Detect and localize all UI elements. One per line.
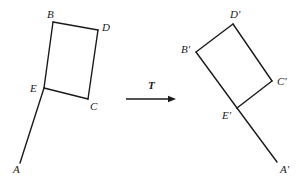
preimage-edge-D-C (88, 30, 98, 99)
image-vertex-label-Bp: B' (181, 44, 190, 55)
preimage-edge-C-E (44, 88, 88, 99)
image-edge-Dp-Cp (233, 24, 272, 81)
transformation-arrow (126, 96, 176, 102)
preimage-vertex-label-C: C (90, 101, 97, 112)
image-vertex-label-Ap: A' (280, 164, 289, 175)
image-edge-Ep-Ap (237, 108, 277, 162)
image-vertex-label-Ep: E' (222, 110, 231, 121)
arrow-head (168, 96, 176, 102)
image-edge-Bp-Dp (196, 24, 233, 52)
preimage-vertex-label-A: A (13, 164, 20, 175)
image-edge-Cp-Ep (237, 81, 272, 108)
preimage-edge-E-B (44, 22, 53, 88)
image-vertex-label-Dp: D' (230, 9, 240, 20)
preimage-vertex-label-D: D (102, 22, 110, 33)
preimage-vertex-label-E: E (30, 83, 37, 94)
preimage-edge-B-D (53, 22, 98, 30)
image-edge-group (196, 24, 277, 162)
transformation-operator-label: T (148, 80, 155, 91)
image-vertex-label-Cp: C' (277, 76, 287, 87)
preimage-vertex-label-B: B (47, 9, 54, 20)
image-edge-Ep-Bp (196, 52, 237, 108)
transformation-figure: ABCDE A'B'C'D'E' T (0, 0, 299, 180)
preimage-edge-E-A (20, 88, 44, 163)
